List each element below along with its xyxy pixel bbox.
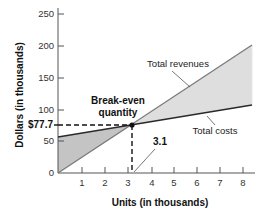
break-even-label-line1: Break-even [91,95,145,106]
y-tick-label: 0 [49,167,54,178]
break-even-chart: 250 200 150 100 50 0 1 2 3 4 5 6 7 8 Uni… [0,0,268,221]
break-even-label-line2: quantity [99,107,138,118]
x-ticks [82,167,243,173]
y-tick-label: 150 [38,72,54,83]
y-tick-label: 250 [38,8,54,19]
costs-label-leader [207,116,215,125]
break-even-units-label: 3.1 [153,136,167,147]
x-tick-label: 2 [102,177,107,188]
x-tick-label: 3 [125,177,130,188]
y-axis-title: Dollars (in thousands) [14,42,25,148]
y-tick-label: 200 [38,40,54,51]
x-tick-label: 5 [171,177,176,188]
x-tick-label: 1 [79,177,84,188]
break-even-dollars-label: $77.7 [28,119,53,130]
break-even-point [129,122,134,127]
x-tick-label: 6 [194,177,199,188]
x-tick-label: 4 [149,177,154,188]
y-tick-label: 100 [38,104,54,115]
total-revenues-label: Total revenues [147,58,209,69]
total-costs-label: Total costs [193,125,238,136]
x-axis-title: Units (in thousands) [112,197,209,208]
y-ticks [58,14,64,141]
x-tick-label: 8 [240,177,245,188]
y-tick-label: 50 [43,135,54,146]
revenues-label-leader [172,71,190,87]
x-tick-label: 7 [217,177,222,188]
